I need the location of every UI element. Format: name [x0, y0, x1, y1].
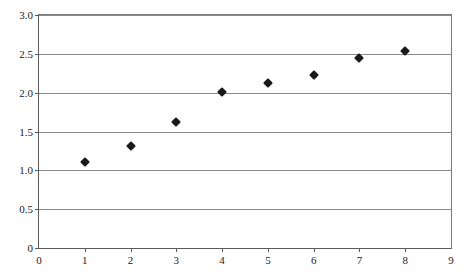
y-axis-tick-label: 2.5	[19, 48, 33, 59]
y-axis-tick-label: 2.0	[19, 87, 33, 98]
gridline-y	[39, 54, 451, 55]
gridline-y	[39, 170, 451, 171]
data-point-marker	[217, 87, 227, 97]
gridline-y	[39, 132, 451, 133]
data-point-marker	[126, 141, 136, 151]
x-axis-tick	[131, 248, 132, 252]
y-axis-tick	[35, 15, 39, 16]
y-axis-tick-label: 0.5	[19, 204, 33, 215]
data-point-marker	[354, 54, 364, 64]
plot-area: 00.51.01.52.02.53.00123456789	[38, 14, 452, 249]
x-axis-tick-label: 9	[448, 255, 454, 266]
x-axis-tick-label: 4	[219, 255, 225, 266]
x-axis-tick	[359, 248, 360, 252]
y-axis-tick	[35, 209, 39, 210]
y-axis-tick	[35, 248, 39, 249]
y-axis-tick-label: 1.0	[19, 165, 33, 176]
data-point-marker	[263, 78, 273, 88]
gridline-y	[39, 209, 451, 210]
gridline-y	[39, 93, 451, 94]
x-axis-tick-label: 1	[82, 255, 88, 266]
y-axis-tick	[35, 132, 39, 133]
data-point-marker	[309, 70, 319, 80]
x-axis-tick-label: 2	[128, 255, 134, 266]
y-axis-tick	[35, 54, 39, 55]
y-axis-tick	[35, 170, 39, 171]
scatter-chart: 00.51.01.52.02.53.00123456789	[0, 0, 466, 280]
x-axis-tick	[314, 248, 315, 252]
x-axis-tick-label: 6	[311, 255, 317, 266]
y-axis-tick-label: 1.5	[19, 126, 33, 137]
y-axis-tick-label: 0	[28, 243, 34, 254]
x-axis-tick	[222, 248, 223, 252]
x-axis-tick-label: 3	[174, 255, 180, 266]
data-point-marker	[171, 117, 181, 127]
x-axis-tick	[85, 248, 86, 252]
gridline-y	[39, 15, 451, 16]
data-point-marker	[80, 157, 90, 167]
x-axis-tick-label: 8	[402, 255, 408, 266]
y-axis-tick	[35, 93, 39, 94]
x-axis-tick	[405, 248, 406, 252]
x-axis-tick	[268, 248, 269, 252]
x-axis-tick-label: 0	[36, 255, 42, 266]
x-axis-tick-label: 5	[265, 255, 271, 266]
y-axis-tick-label: 3.0	[19, 10, 33, 21]
x-axis-tick	[176, 248, 177, 252]
x-axis-tick-label: 7	[357, 255, 363, 266]
